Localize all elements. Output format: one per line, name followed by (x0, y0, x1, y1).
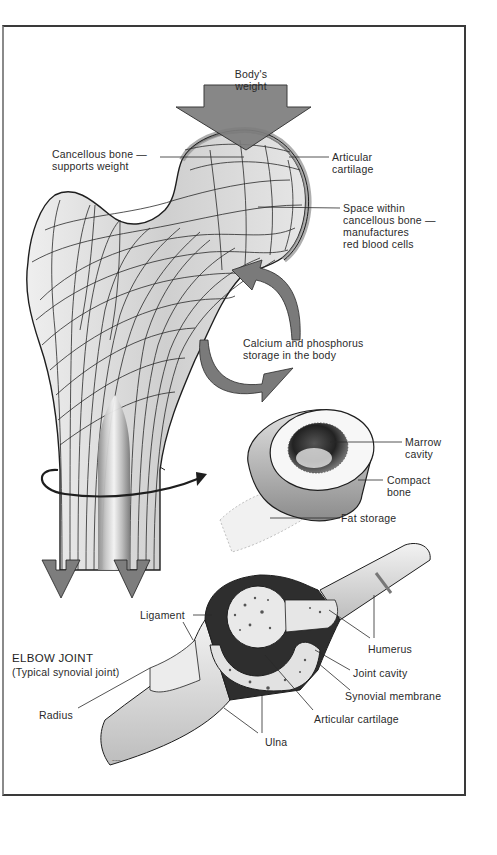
label-ligament: Ligament (140, 609, 185, 621)
label-calcium-storage: Calcium and phosphorus storage in the bo… (243, 337, 364, 361)
bone-cross-section-illustration (220, 403, 402, 552)
label-line: Compact (387, 474, 430, 486)
label-line: Articular (332, 151, 374, 163)
label-joint-cavity: Joint cavity (353, 667, 407, 679)
label-ulna: Ulna (265, 736, 287, 748)
label-compact-bone: Compact bone (387, 474, 430, 498)
label-line: cancellous bone — (343, 214, 436, 226)
weight-arrow-icon (176, 85, 311, 150)
elbow-joint-title: ELBOW JOINT (12, 652, 93, 664)
label-line: Body's (223, 68, 279, 80)
label-marrow-cavity: Marrow cavity (405, 436, 441, 460)
elbow-joint-subtitle: (Typical synovial joint) (12, 666, 120, 678)
artist-signature: ~~~ (112, 757, 121, 763)
label-synovial-membrane: Synovial membrane (345, 690, 441, 702)
label-line: Space within (343, 202, 436, 214)
label-body-weight: Body's weight (223, 68, 279, 92)
label-line: manufactures (343, 226, 436, 238)
label-line: Cancellous bone — (52, 148, 147, 160)
label-line: cavity (405, 448, 441, 460)
label-line: supports weight (52, 160, 147, 172)
label-line: red blood cells (343, 238, 436, 250)
label-line: cartilage (332, 163, 374, 175)
label-line: bone (387, 486, 430, 498)
label-humerus: Humerus (368, 643, 412, 655)
diagram-canvas: ~~~ Body's weight Cancellous bone — supp… (0, 0, 497, 855)
label-articular-cartilage-femur: Articular cartilage (332, 151, 374, 175)
label-fat-storage: Fat storage (341, 512, 396, 524)
label-cancellous-bone: Cancellous bone — supports weight (52, 148, 147, 172)
label-line: Marrow (405, 436, 441, 448)
label-articular-cartilage-elbow: Articular cartilage (314, 713, 399, 725)
label-line: weight (223, 80, 279, 92)
label-line: Calcium and phosphorus (243, 337, 364, 349)
label-space-within-cancellous: Space within cancellous bone — manufactu… (343, 202, 436, 250)
label-radius: Radius (39, 709, 73, 721)
label-line: storage in the body (243, 349, 364, 361)
illustration: ~~~ (0, 0, 497, 855)
